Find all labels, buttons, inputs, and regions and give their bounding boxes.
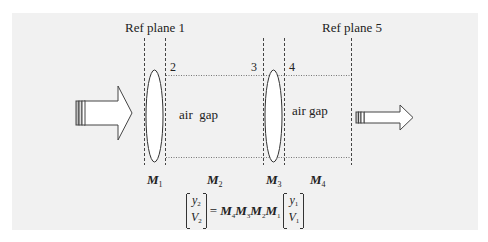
matrix-m1-label: M1 [147, 173, 163, 189]
air-gap-1-label: air gap [179, 108, 218, 121]
matrix-m3-label: M3 [266, 173, 282, 189]
input-vector: y1 V1 [283, 194, 304, 228]
output-vector: y2 V2 [186, 194, 207, 228]
equals-sign: = [210, 203, 217, 219]
transfer-equation: y2 V2 = M4M3M2M1 y1 V1 [186, 196, 304, 226]
input-arrow-icon [76, 86, 132, 140]
ref-plane-5-label: Ref plane 5 [322, 21, 382, 34]
matrix-m4-label: M4 [310, 173, 326, 189]
plane-3-label: 3 [251, 61, 257, 73]
plane-2-label: 2 [170, 61, 176, 73]
ref-plane-1-label: Ref plane 1 [125, 21, 185, 34]
air-gap-2-label: air gap [292, 104, 328, 117]
plane-4-label: 4 [289, 61, 295, 73]
lens-1-icon [146, 70, 163, 162]
matrix-product: M4M3M2M1 [220, 203, 280, 220]
matrix-m2-label: M2 [207, 173, 223, 189]
lens-2-icon [265, 70, 282, 162]
output-arrow-icon [356, 105, 413, 130]
